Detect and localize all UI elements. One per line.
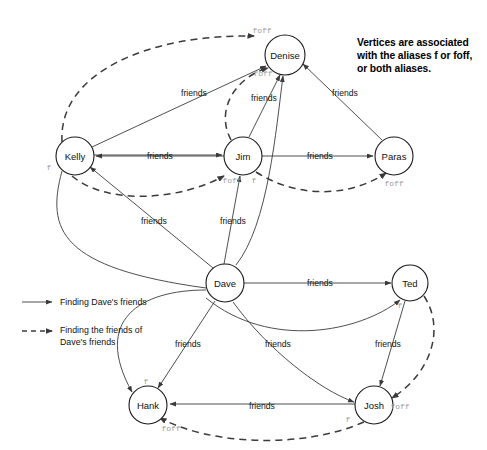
edge-dave-to-josh <box>233 302 354 402</box>
edge-label-kelly-jim: friends <box>147 151 173 161</box>
edge-label-dave-kelly: friends <box>141 216 167 226</box>
solid-edges <box>57 64 405 404</box>
edge-label-jim-paras: friends <box>307 151 333 161</box>
edge-dashed-josh-to-hank <box>160 418 364 440</box>
alias-labels-layer: fofffoffffoffffoffffofffffoff <box>47 26 410 433</box>
legend-dashed-label-line2: Dave's friends <box>60 337 116 347</box>
edge-dashed-jim-to-paras <box>256 172 386 192</box>
node-hank[interactable]: Hank <box>129 386 167 424</box>
alias-label-jim-foff: foff <box>222 176 241 185</box>
node-label-kelly: Kelly <box>65 151 86 162</box>
node-label-paras: Paras <box>382 151 407 162</box>
note-line-2: with the aliases f or foff, <box>357 49 485 62</box>
edge-label-dave-hank: friends <box>175 339 201 349</box>
edge-dashed-jim-to-denise <box>225 68 268 140</box>
alias-label-josh-foff: foff <box>390 402 409 411</box>
edge-labels-layer: friendsfriendsfriendsfriendsfriendsfrien… <box>141 88 401 411</box>
edge-paras-to-denise <box>303 64 382 140</box>
node-kelly[interactable]: Kelly <box>56 137 94 175</box>
edge-label-josh-hank: friends <box>249 401 275 411</box>
edge-label-dave-josh: friends <box>265 339 291 349</box>
alias-label-kelly-f: f <box>47 163 52 172</box>
node-jim[interactable]: Jim <box>224 137 262 175</box>
alias-label-paras-foff: foff <box>384 179 403 188</box>
vertices-alias-note: Vertices are associated with the aliases… <box>357 36 485 75</box>
alias-label-josh-f: f <box>346 415 351 424</box>
edge-label-dave-jim: friends <box>220 216 246 226</box>
alias-label-denise-top-foff: foff <box>252 26 271 35</box>
node-dave[interactable]: Dave <box>206 264 244 302</box>
dashed-edges <box>62 36 434 440</box>
node-label-ted: Ted <box>402 278 417 289</box>
edge-label-kelly-denise: friends <box>181 88 207 98</box>
node-label-hank: Hank <box>137 400 159 411</box>
edge-dashed-kelly-to-jim <box>72 176 224 196</box>
node-label-denise: Denise <box>270 50 300 61</box>
edge-label-paras-denise: friends <box>332 88 358 98</box>
legend-dashed-label-line1: Finding the friends of <box>60 325 143 335</box>
alias-label-jim-f: f <box>252 176 257 185</box>
alias-label-hank-foff: foff <box>161 424 180 433</box>
edge-kelly-long-loop <box>57 171 206 288</box>
node-ted[interactable]: Ted <box>392 265 428 301</box>
edge-label-ted-josh: friends <box>375 339 401 349</box>
edge-josh-to-ted <box>206 298 400 331</box>
alias-label-ted-f: f <box>398 301 403 310</box>
edge-label-dave-ted: friends <box>307 278 333 288</box>
node-label-jim: Jim <box>236 151 251 162</box>
note-line-1: Vertices are associated <box>357 36 485 49</box>
edge-dashed-kelly-to-denise <box>62 36 254 142</box>
diagram-canvas: DeniseKellyJimParasDaveTedHankJosh frien… <box>0 0 487 450</box>
alias-label-denise-lower-foff: foff <box>253 69 272 78</box>
legend-solid-label: Finding Dave's friends <box>60 297 147 307</box>
note-line-3: or both aliases. <box>357 62 485 75</box>
node-paras[interactable]: Paras <box>375 137 413 175</box>
nodes-layer: DeniseKellyJimParasDaveTedHankJosh <box>56 35 428 424</box>
edge-label-jim-denise: friends <box>251 93 277 103</box>
edge-jim-to-denise <box>249 75 280 137</box>
alias-label-hank-f: f <box>144 377 149 386</box>
edge-kelly-to-denise <box>92 66 266 147</box>
node-label-josh: Josh <box>364 400 384 411</box>
node-josh[interactable]: Josh <box>355 386 393 424</box>
legend: Finding Dave's friends Finding the frien… <box>22 297 147 347</box>
node-label-dave: Dave <box>214 278 236 289</box>
